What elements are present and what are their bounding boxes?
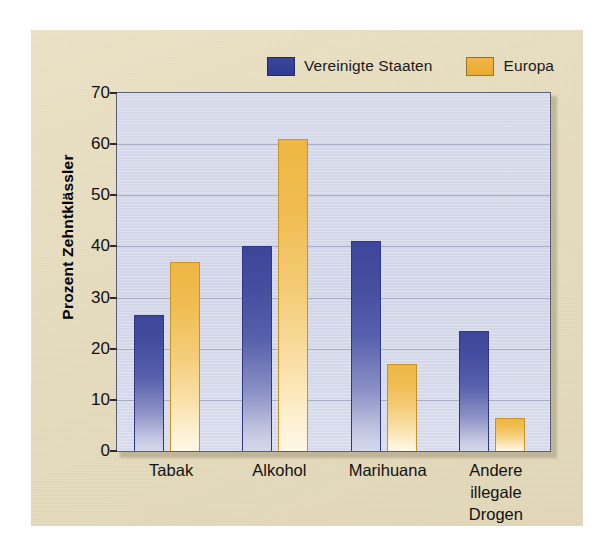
y-axis-tick-mark — [110, 450, 117, 452]
y-axis-tick-mark — [110, 297, 117, 299]
legend-swatch-orange-icon — [466, 57, 494, 76]
plot-area: 010203040506070 TabakAlkoholMarihuanaAnd… — [116, 92, 551, 452]
bar-vereinigte-staaten — [242, 246, 272, 451]
y-axis-tick-label: 40 — [91, 236, 110, 256]
y-axis-tick-label: 70 — [91, 83, 110, 103]
figure-root: Vereinigte Staaten Europa Prozent Zehntk… — [0, 0, 598, 550]
x-axis-category-label: Andere illegale Drogen — [469, 460, 523, 525]
y-axis-tick-mark — [110, 245, 117, 247]
gridline — [117, 144, 550, 145]
chart-paper-panel: Vereinigte Staaten Europa Prozent Zehntk… — [31, 30, 583, 526]
bar-vereinigte-staaten — [459, 331, 489, 451]
y-axis-tick-label: 10 — [91, 389, 110, 409]
x-axis-category-label: Marihuana — [349, 460, 427, 482]
bar-vereinigte-staaten — [134, 315, 164, 451]
bar-europa — [495, 418, 525, 451]
legend-label-vereinigte-staaten: Vereinigte Staaten — [304, 57, 432, 75]
y-axis-title: Prozent Zehntklässler — [59, 132, 77, 342]
y-axis-tick-mark — [110, 194, 117, 196]
y-axis-tick-label: 30 — [91, 287, 110, 307]
y-axis-tick-mark — [110, 92, 117, 94]
y-axis-tick-mark — [110, 399, 117, 401]
gridline — [117, 246, 550, 247]
plot-wrapper: 010203040506070 TabakAlkoholMarihuanaAnd… — [116, 92, 553, 454]
bar-europa — [170, 262, 200, 451]
bar-vereinigte-staaten — [351, 241, 381, 451]
chart-legend: Vereinigte Staaten Europa — [267, 55, 554, 77]
y-axis-tick-label: 50 — [91, 185, 110, 205]
y-axis-tick-label: 60 — [91, 134, 110, 154]
y-axis-tick-mark — [110, 143, 117, 145]
legend-item-vereinigte-staaten: Vereinigte Staaten — [267, 57, 432, 76]
gridline — [117, 195, 550, 196]
y-axis-tick-label: 0 — [101, 441, 110, 461]
legend-item-europa: Europa — [466, 57, 554, 76]
y-axis-tick-label: 20 — [91, 338, 110, 358]
x-axis-category-label: Alkohol — [252, 460, 306, 482]
x-axis-category-label: Tabak — [149, 460, 193, 482]
y-axis-tick-mark — [110, 348, 117, 350]
legend-swatch-blue-icon — [267, 57, 295, 76]
bar-europa — [387, 364, 417, 451]
bar-europa — [278, 139, 308, 451]
legend-label-europa: Europa — [503, 57, 554, 75]
